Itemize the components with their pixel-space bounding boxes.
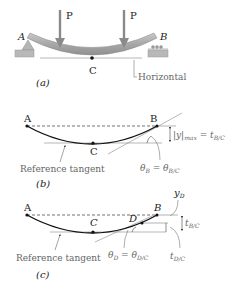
- point-a: [25, 124, 28, 127]
- point-d: [140, 221, 143, 224]
- point-b: [155, 124, 158, 127]
- label-b: B: [150, 113, 157, 124]
- yd-leader: [170, 200, 178, 216]
- label-reference-tangent: Reference tangent: [16, 253, 101, 263]
- point-a: [25, 213, 28, 216]
- point-c: [91, 230, 94, 233]
- caption-c: (c): [36, 269, 50, 280]
- label-tbc: tB/C: [185, 218, 200, 229]
- label-d: D: [128, 213, 137, 224]
- beam-deflection-diagram: P P A B C Horizontal (a) A B C |y|max = …: [0, 0, 237, 284]
- theta-leader: [151, 136, 160, 160]
- pin-support-icon: [15, 40, 34, 57]
- theta-d-arc: [132, 227, 136, 232]
- label-tdc: tD/C: [170, 251, 185, 262]
- label-theta-b: θB = θB/C: [140, 163, 180, 174]
- caption-a: (a): [36, 77, 50, 88]
- load-arrow-p2: [119, 10, 129, 48]
- label-theta-d: θD = θD/C: [108, 250, 149, 261]
- point-b: [155, 213, 158, 216]
- label-a: A: [23, 113, 32, 124]
- point-c: [91, 141, 94, 144]
- roller-support-icon: [148, 45, 168, 57]
- panel-a: P P A B C Horizontal (a): [15, 10, 186, 88]
- load-arrow-p1: [55, 10, 65, 48]
- label-p1: P: [66, 10, 73, 21]
- bent-beam: [27, 33, 157, 55]
- label-b: B: [153, 202, 161, 213]
- panel-b: A B C |y|max = tB/C θB = θB/C Reference …: [20, 113, 225, 189]
- label-c: C: [90, 146, 98, 157]
- tdc-leader: [170, 227, 180, 248]
- ref-tangent-leader: [55, 235, 60, 250]
- label-c: C: [89, 65, 97, 76]
- label-reference-tangent: Reference tangent: [20, 164, 105, 174]
- horizontal-leader: [134, 60, 137, 77]
- tangent-at-b: [108, 113, 182, 154]
- label-ymax: |y|max = tB/C: [173, 130, 225, 141]
- elastic-curve: [27, 126, 157, 144]
- label-horizontal: Horizontal: [138, 72, 186, 82]
- theta-b-arc: [147, 136, 151, 143]
- theta-d-leader: [124, 230, 128, 248]
- label-b: B: [159, 31, 167, 42]
- label-c: C: [90, 217, 98, 228]
- ref-tangent-leader: [60, 146, 65, 162]
- label-p2: P: [130, 10, 137, 21]
- label-a: A: [23, 202, 32, 213]
- label-yd: yD: [173, 187, 185, 199]
- label-a: A: [17, 31, 25, 42]
- caption-b: (b): [36, 178, 50, 189]
- point-c: [90, 56, 94, 60]
- panel-c: A B C D tB/C yD tD/C θD = θD/C Reference…: [16, 187, 200, 280]
